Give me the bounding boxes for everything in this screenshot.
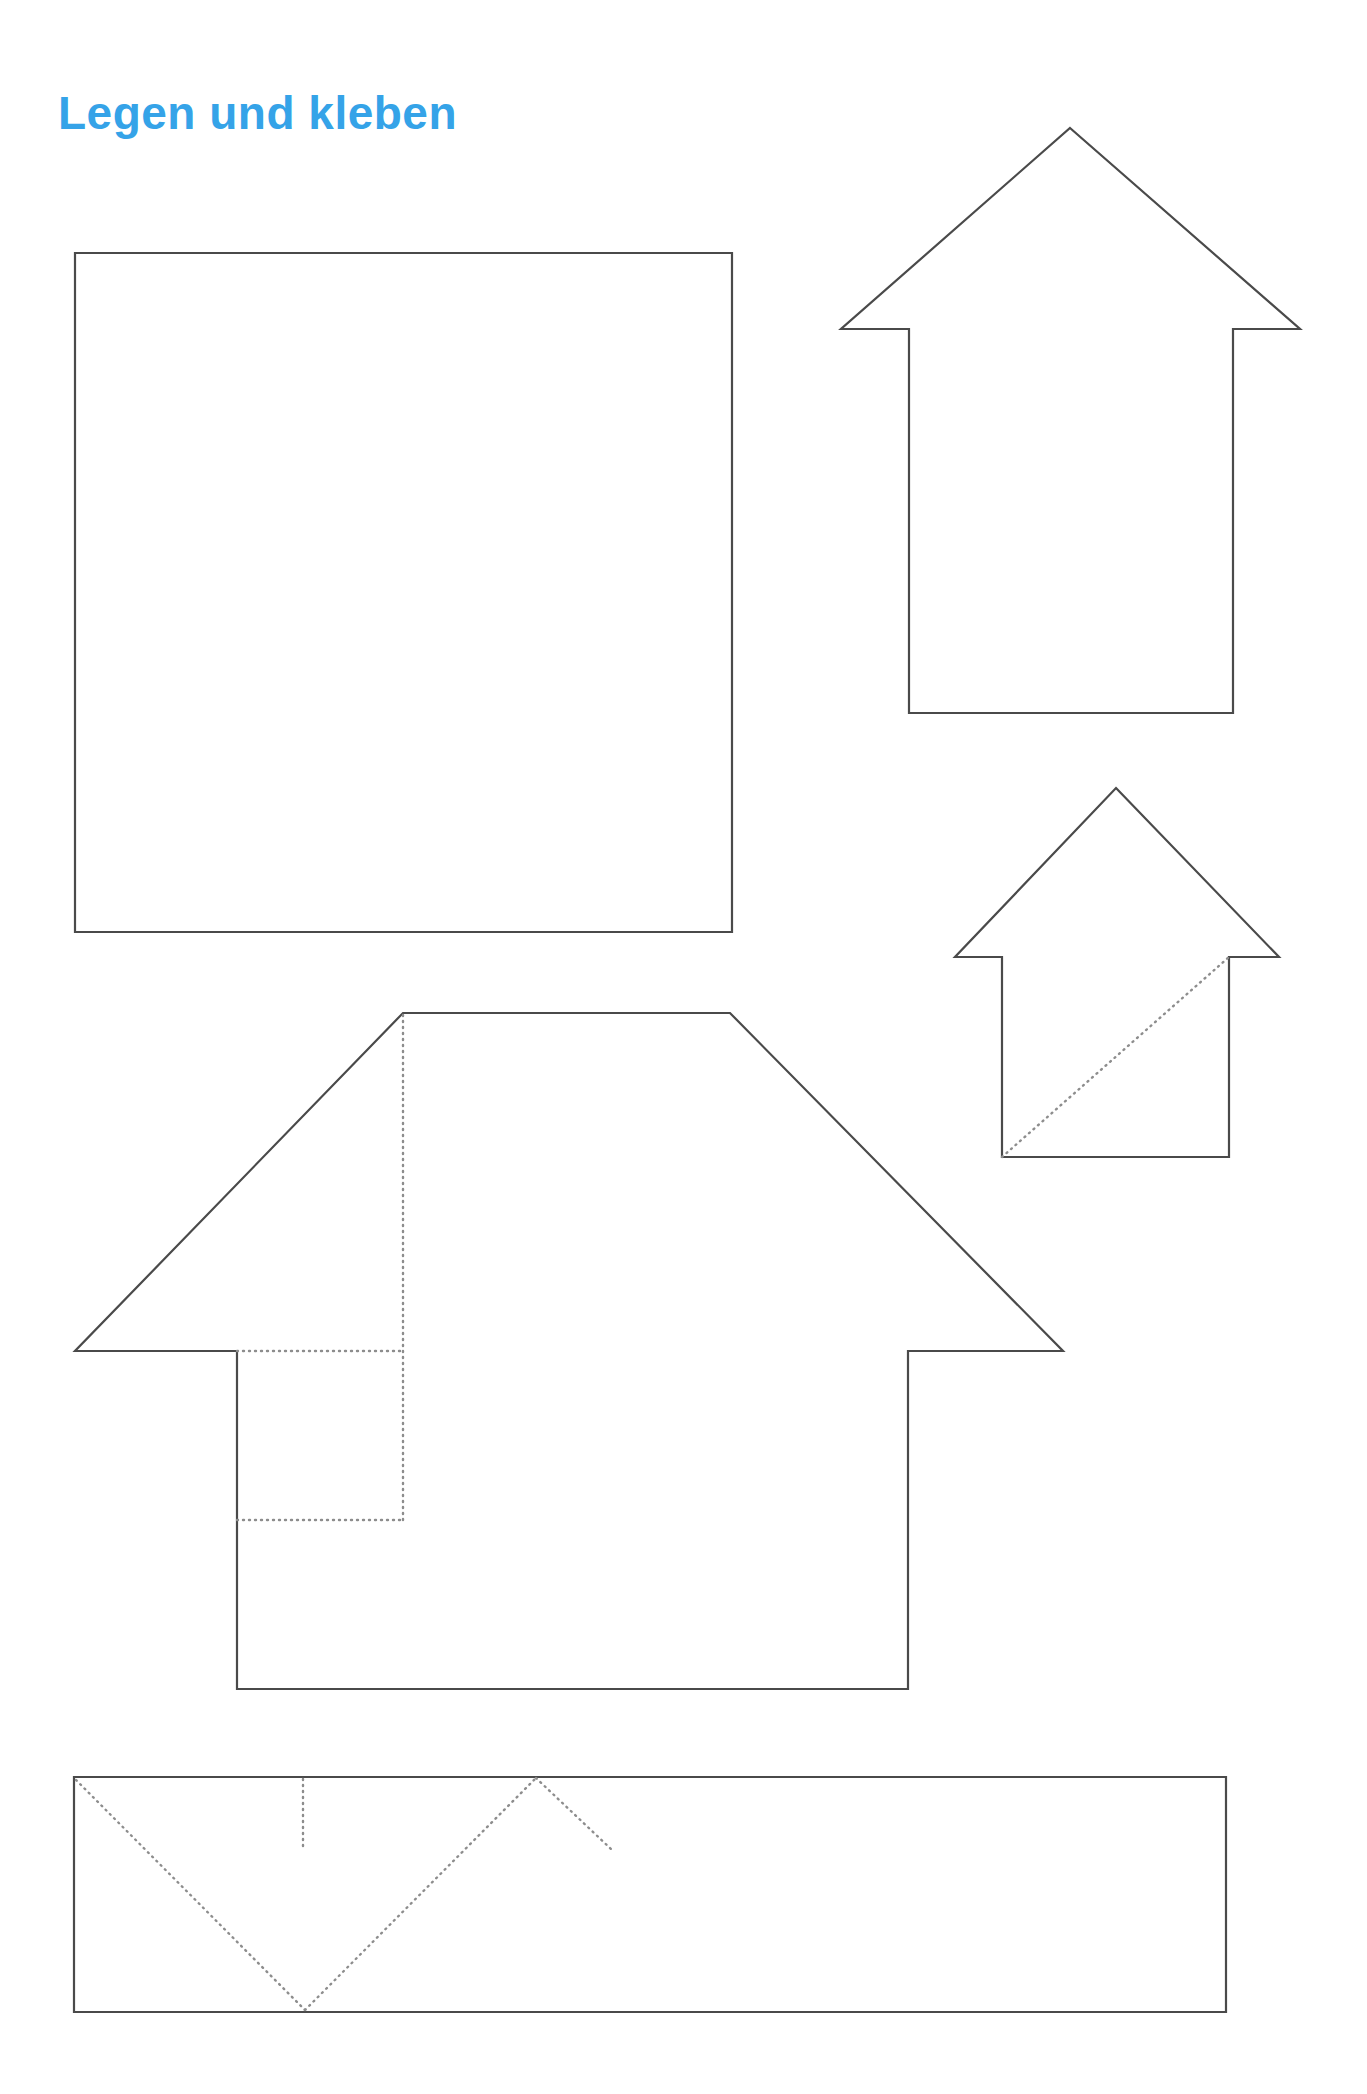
craft-template-diagram xyxy=(0,0,1367,2094)
house-outline-trapezoid-roof xyxy=(75,1013,1063,1689)
worksheet-page: Legen und kleben xyxy=(0,0,1367,2094)
house-outline-small xyxy=(955,788,1279,1157)
bottom-strip-template xyxy=(74,1777,1226,2012)
house-outline-large xyxy=(841,128,1300,713)
large-square-template xyxy=(75,253,732,932)
